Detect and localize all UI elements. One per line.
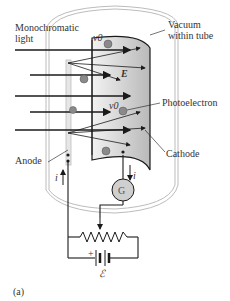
battery [96, 250, 109, 266]
anode-label: Anode [15, 155, 42, 166]
emf-label: ℰ [99, 268, 105, 279]
galvanometer-label: G [118, 185, 125, 196]
vacuum-pointer [150, 30, 165, 35]
current-label-left: i [55, 172, 58, 183]
rheostat-resistor [80, 232, 127, 242]
velocity-label-mid: v0 [109, 100, 118, 111]
velocity-label-top: v0 [93, 32, 102, 43]
electric-field-label: E [121, 68, 128, 79]
current-label-right: i [133, 170, 136, 181]
vacuum-label-line2: within tube [168, 30, 213, 41]
battery-plus-label: + [88, 248, 94, 259]
light-label: Monochromatic light [15, 22, 79, 44]
photoelectron-label: Photoelectron [162, 97, 218, 108]
light-label-line2: light [15, 33, 79, 44]
vacuum-label-line1: Vacuum [168, 19, 213, 30]
vacuum-label: Vacuum within tube [168, 19, 213, 41]
cathode-label: Cathode [166, 148, 199, 159]
light-label-line1: Monochromatic [15, 22, 79, 33]
anode-pointer [48, 150, 68, 162]
panel-label: (a) [13, 286, 24, 297]
